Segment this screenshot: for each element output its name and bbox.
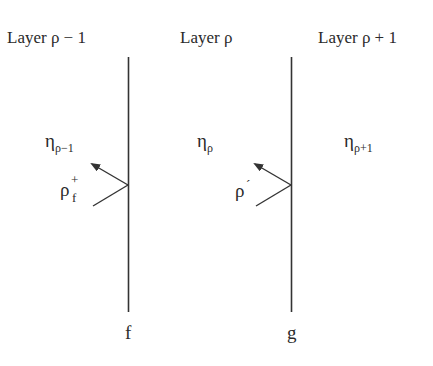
reflected-ray-f: [92, 164, 128, 185]
layer-label-current: Layer ρ: [180, 29, 232, 46]
layer-label-next: Layer ρ + 1: [318, 29, 397, 46]
layer-label-prev: Layer ρ − 1: [7, 29, 86, 46]
interface-name-f: f: [125, 323, 131, 342]
reflection-label-f: ρ + f: [60, 180, 69, 199]
incident-ray-f: [93, 185, 128, 206]
eta-current: ηρ: [197, 131, 213, 154]
incident-ray-g: [256, 185, 291, 206]
interface-name-g: g: [287, 323, 297, 342]
eta-prev: ηρ−1: [45, 131, 74, 154]
reflection-label-g: ρ ´: [235, 181, 244, 200]
eta-next: ηρ+1: [344, 131, 373, 154]
reflected-ray-g: [255, 164, 291, 185]
